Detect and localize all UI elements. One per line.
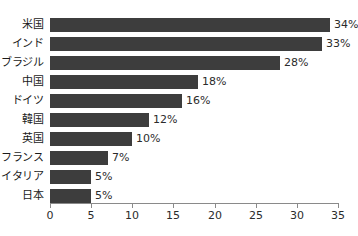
bar-value-label: 7% xyxy=(112,150,129,166)
bar xyxy=(50,56,280,70)
bar xyxy=(50,94,182,108)
x-axis-tick xyxy=(297,204,298,208)
x-axis-tick-label: 5 xyxy=(71,209,111,222)
x-axis-tick-label: 0 xyxy=(30,209,70,222)
x-axis-line xyxy=(50,203,339,204)
x-axis-tick-label: 20 xyxy=(195,209,235,222)
x-axis-tick xyxy=(50,204,51,208)
x-axis-tick-label: 10 xyxy=(112,209,152,222)
bar-value-label: 16% xyxy=(186,93,210,109)
bar xyxy=(50,132,132,146)
x-axis-tick xyxy=(338,204,339,208)
x-axis-tick xyxy=(91,204,92,208)
x-axis-tick xyxy=(256,204,257,208)
bar-row: 中国18% xyxy=(0,73,358,92)
bar-value-label: 5% xyxy=(95,169,112,185)
bar-row: ブラジル28% xyxy=(0,54,358,73)
bar-chart: 米国34%インド33%ブラジル28%中国18%ドイツ16%韓国12%英国10%フ… xyxy=(0,0,358,236)
bar-row: ドイツ16% xyxy=(0,92,358,111)
bar-value-label: 12% xyxy=(153,112,177,128)
bar xyxy=(50,151,108,165)
category-label: 米国 xyxy=(0,16,44,35)
x-axis-tick xyxy=(215,204,216,208)
bar-row: 英国10% xyxy=(0,130,358,149)
bar-row: 米国34% xyxy=(0,16,358,35)
bar-value-label: 18% xyxy=(202,74,226,90)
bar xyxy=(50,189,91,203)
category-label: 日本 xyxy=(0,187,44,206)
x-axis-tick xyxy=(173,204,174,208)
bar-value-label: 10% xyxy=(136,131,160,147)
bar-value-label: 5% xyxy=(95,188,112,204)
bar-row: 韓国12% xyxy=(0,111,358,130)
bar-value-label: 28% xyxy=(284,55,308,71)
category-label: インド xyxy=(0,35,44,54)
category-label: イタリア xyxy=(0,168,44,187)
x-axis-tick xyxy=(132,204,133,208)
bar xyxy=(50,75,198,89)
bar xyxy=(50,18,330,32)
bar xyxy=(50,113,149,127)
category-label: 英国 xyxy=(0,130,44,149)
x-axis-tick-label: 15 xyxy=(153,209,193,222)
category-label: 韓国 xyxy=(0,111,44,130)
category-label: ドイツ xyxy=(0,92,44,111)
category-label: フランス xyxy=(0,149,44,168)
x-axis-tick-label: 30 xyxy=(277,209,317,222)
bar-value-label: 33% xyxy=(326,36,350,52)
bar-value-label: 34% xyxy=(334,17,358,33)
category-label: ブラジル xyxy=(0,54,44,73)
x-axis-tick-label: 35 xyxy=(318,209,358,222)
category-label: 中国 xyxy=(0,73,44,92)
bar xyxy=(50,37,322,51)
bar xyxy=(50,170,91,184)
bar-row: インド33% xyxy=(0,35,358,54)
bar-row: フランス7% xyxy=(0,149,358,168)
x-axis-tick-label: 25 xyxy=(236,209,276,222)
bar-row: イタリア5% xyxy=(0,168,358,187)
